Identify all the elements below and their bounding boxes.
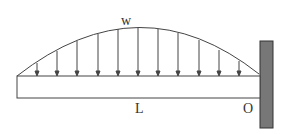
load-arrow-icon	[136, 28, 140, 76]
support-label: O	[243, 101, 253, 116]
load-arrow-icon	[237, 61, 241, 76]
length-label: L	[135, 101, 144, 116]
cantilever-diagram: w L O	[0, 0, 284, 134]
load-arrow-icon	[176, 33, 180, 76]
load-arrow-icon	[197, 40, 201, 76]
fixed-wall-support	[260, 41, 273, 128]
load-arrow-icon	[55, 51, 59, 76]
load-arrow-icon	[217, 50, 221, 76]
load-label: w	[121, 13, 132, 28]
beam	[17, 76, 260, 98]
load-arrow-icon	[156, 29, 160, 76]
load-arrow-icon	[96, 34, 100, 76]
load-arrows	[35, 28, 241, 76]
load-arrow-icon	[75, 41, 79, 76]
load-arrow-icon	[116, 29, 120, 76]
load-arrow-icon	[35, 63, 39, 76]
